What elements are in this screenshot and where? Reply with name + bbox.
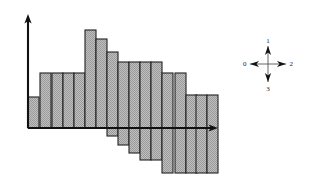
- bar: [207, 95, 218, 173]
- figure-root: 1 2 3 0: [0, 0, 310, 179]
- bar: [140, 62, 151, 160]
- bar: [85, 30, 96, 128]
- bar: [28, 97, 39, 128]
- bar: [63, 73, 74, 128]
- bar: [129, 62, 140, 153]
- bar: [107, 52, 118, 136]
- bar: [175, 73, 186, 173]
- bar: [74, 73, 85, 128]
- bar: [118, 62, 129, 145]
- rose-label-left: 0: [243, 60, 247, 68]
- rose-label-up: 1: [266, 37, 270, 45]
- bar: [40, 73, 51, 128]
- rose-label-right: 2: [290, 60, 294, 68]
- bar-series: [28, 30, 218, 173]
- rose-label-down: 3: [266, 85, 270, 93]
- bar: [186, 95, 197, 173]
- figure-canvas: 1 2 3 0: [0, 0, 310, 179]
- bar: [52, 73, 63, 128]
- bar: [151, 62, 162, 160]
- bar: [196, 95, 207, 173]
- bar: [162, 73, 173, 173]
- bar: [96, 39, 107, 128]
- direction-rose: 1 2 3 0: [243, 37, 294, 93]
